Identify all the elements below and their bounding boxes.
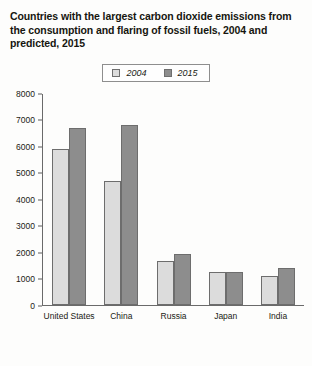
- bars-region: [43, 94, 304, 305]
- y-tick-label: 5000: [16, 168, 35, 178]
- bar-group: [95, 94, 147, 305]
- bar-china-2004[interactable]: [104, 181, 121, 305]
- plot-area: 010002000300040005000600070008000: [6, 94, 306, 306]
- y-tick-label: 8000: [16, 89, 35, 99]
- bar-japan-2015[interactable]: [226, 272, 243, 305]
- legend-swatch-2004: [112, 69, 120, 77]
- y-tick-label: 6000: [16, 142, 35, 152]
- y-tick-label: 1000: [16, 274, 35, 284]
- bar-japan-2004[interactable]: [209, 272, 226, 304]
- bar-group: [147, 94, 199, 305]
- chart-figure: Countries with the largest carbon dioxid…: [0, 0, 312, 366]
- x-axis-line: [42, 305, 304, 306]
- chart-title: Countries with the largest carbon dioxid…: [10, 10, 302, 51]
- bar-united-states-2004[interactable]: [52, 149, 69, 305]
- y-tick-label: 4000: [16, 195, 35, 205]
- x-tick-label: United States: [43, 311, 95, 321]
- bar-russia-2015[interactable]: [174, 254, 191, 304]
- bar-russia-2004[interactable]: [157, 261, 174, 305]
- legend-swatch-2015: [164, 69, 172, 77]
- legend-label-2015: 2015: [178, 68, 198, 78]
- bar-china-2015[interactable]: [121, 125, 138, 304]
- y-tick-label: 3000: [16, 221, 35, 231]
- legend-entry-2015[interactable]: 2015: [164, 68, 198, 78]
- x-tick-label: India: [252, 311, 304, 321]
- x-tick-label: Japan: [200, 311, 252, 321]
- y-axis: 010002000300040005000600070008000: [6, 94, 42, 306]
- x-tick-label: China: [95, 311, 147, 321]
- bar-united-states-2015[interactable]: [69, 128, 86, 305]
- bar-group: [43, 94, 95, 305]
- y-tick-label: 2000: [16, 248, 35, 258]
- bar-group: [252, 94, 304, 305]
- bar-india-2004[interactable]: [261, 276, 278, 305]
- y-tick-label: 7000: [16, 115, 35, 125]
- x-tick-label: Russia: [147, 311, 199, 321]
- x-axis: United StatesChinaRussiaJapanIndia: [43, 311, 304, 321]
- legend-label-2004: 2004: [126, 68, 146, 78]
- legend: 2004 2015: [6, 64, 306, 82]
- bar-group: [200, 94, 252, 305]
- legend-box: 2004 2015: [102, 64, 209, 82]
- legend-entry-2004[interactable]: 2004: [112, 68, 146, 78]
- y-tick-label: 0: [30, 301, 35, 311]
- bar-india-2015[interactable]: [278, 268, 295, 305]
